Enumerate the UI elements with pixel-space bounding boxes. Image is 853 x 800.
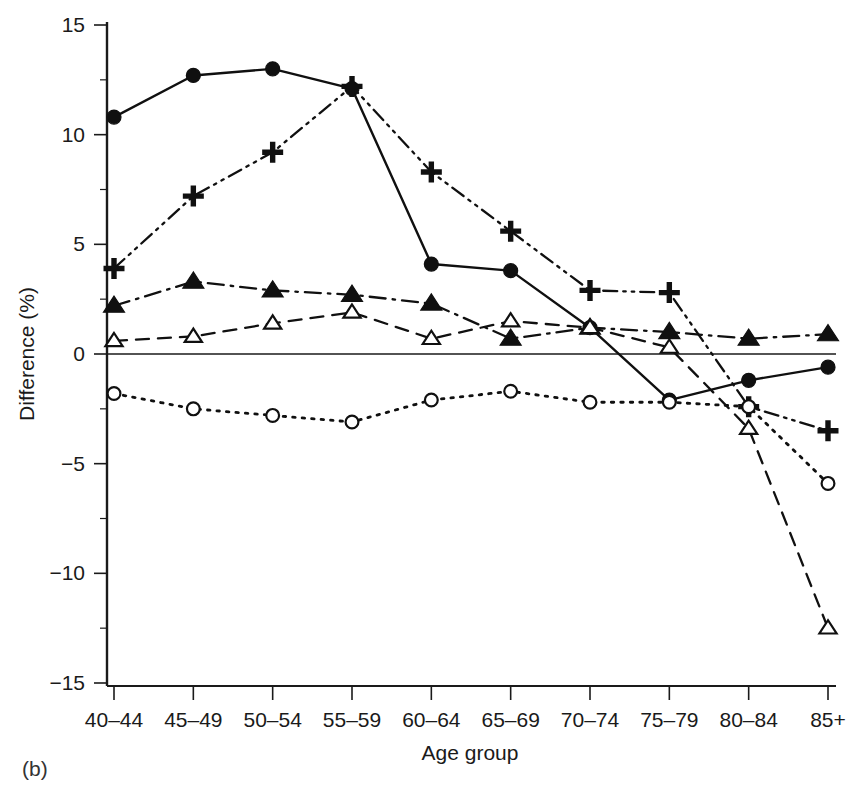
difference-by-age-group-line-chart: 151050−5−10−15 40–4445–4950–5455–5960–64… (0, 0, 853, 800)
data-point-filled-triangle (818, 325, 839, 341)
data-point-filled-circle (266, 62, 280, 76)
data-point-open-triangle (343, 304, 360, 317)
data-point-plus (818, 420, 839, 441)
x-axis-tick-labels: 40–4445–4950–5455–5960–6465–6970–7475–79… (85, 708, 846, 731)
data-point-plus (262, 142, 283, 163)
x-tick-label: 80–84 (719, 708, 778, 731)
chart-figure: 151050−5−10−15 40–4445–4950–5455–5960–64… (0, 0, 853, 800)
x-axis-title: Age group (422, 741, 519, 764)
x-tick-label: 65–69 (481, 708, 539, 731)
data-point-open-circle (425, 394, 438, 407)
series-line-plus (114, 86, 828, 430)
x-tick-label: 45–49 (164, 708, 222, 731)
y-tick-label: −15 (49, 671, 85, 694)
x-tick-label: 70–74 (561, 708, 620, 731)
series-lines-group (114, 69, 828, 628)
data-point-plus (500, 221, 521, 242)
y-tick-label: 0 (73, 342, 85, 365)
data-point-open-circle (266, 409, 279, 422)
y-tick-label: 15 (62, 13, 85, 36)
x-tick-label: 40–44 (85, 708, 144, 731)
data-point-filled-circle (186, 68, 200, 82)
y-tick-label: 5 (73, 232, 85, 255)
data-point-open-circle (504, 385, 517, 398)
series-markers-group (104, 62, 839, 634)
y-tick-label: 10 (62, 123, 85, 146)
data-point-open-triangle (185, 329, 202, 342)
y-tick-label: −5 (61, 452, 85, 475)
data-point-open-circle (663, 396, 676, 409)
y-axis-title: Difference (%) (15, 287, 38, 421)
data-point-open-triangle (502, 313, 519, 326)
data-point-filled-circle (504, 264, 518, 278)
data-point-filled-triangle (421, 294, 442, 310)
data-point-filled-circle (424, 257, 438, 271)
x-tick-label: 75–79 (640, 708, 698, 731)
data-point-filled-circle (107, 110, 121, 124)
data-point-filled-triangle (342, 285, 363, 301)
series-line-open-circle (114, 391, 828, 483)
data-point-filled-circle (821, 360, 835, 374)
series-line-open-triangle (114, 312, 828, 628)
data-point-open-circle (822, 477, 835, 490)
data-point-plus (342, 76, 363, 97)
y-axis-tick-labels: 151050−5−10−15 (49, 13, 85, 694)
panel-label: (b) (22, 757, 48, 780)
data-point-plus (659, 282, 680, 303)
y-tick-label: −10 (49, 561, 85, 584)
x-tick-label: 60–64 (402, 708, 461, 731)
y-axis-major-ticks (94, 25, 107, 683)
x-tick-label: 55–59 (323, 708, 381, 731)
data-point-open-circle (584, 396, 597, 409)
data-point-open-circle (187, 402, 200, 415)
data-point-open-triangle (819, 620, 836, 633)
data-point-filled-triangle (183, 272, 204, 288)
data-point-filled-triangle (659, 322, 680, 338)
data-point-open-circle (108, 387, 121, 400)
data-point-plus (580, 280, 601, 301)
series-line-filled-circle (114, 69, 828, 400)
data-point-open-circle (742, 400, 755, 413)
data-point-filled-circle (742, 373, 756, 387)
x-tick-label: 85+ (810, 708, 846, 731)
x-tick-label: 50–54 (243, 708, 302, 731)
x-axis-ticks (114, 686, 828, 700)
data-point-open-circle (346, 416, 359, 429)
